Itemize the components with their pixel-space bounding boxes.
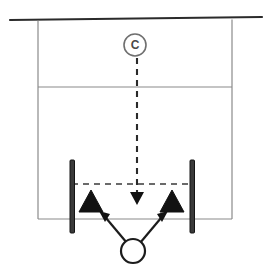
pass-arrow-left-shaft (106, 218, 127, 243)
post-left (70, 160, 75, 233)
cone-right (160, 190, 184, 212)
coach-run-arrowhead-icon (130, 192, 144, 205)
cone-left (79, 190, 103, 212)
coach-label: C (131, 38, 140, 52)
drill-canvas: C (0, 0, 267, 274)
post-right (190, 160, 195, 233)
top-boundary-line (10, 17, 262, 20)
ball (121, 239, 145, 263)
drill-diagram: C (0, 0, 267, 274)
pass-arrow-right-shaft (140, 218, 161, 243)
